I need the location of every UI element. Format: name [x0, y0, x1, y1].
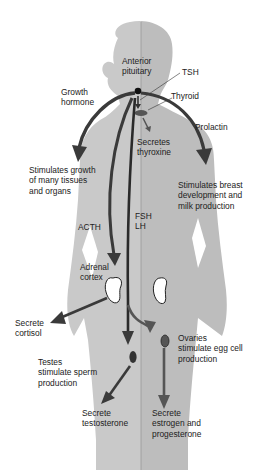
- thyroid-gland-icon: [135, 110, 148, 116]
- secrete-cortisol-label: Secrete cortisol: [15, 318, 44, 339]
- fsh-lh-label: FSH LH: [135, 211, 152, 232]
- pituitary-gland-icon: [135, 88, 142, 95]
- anterior-pituitary-label: Anterior pituitary: [122, 56, 151, 77]
- acth-label: ACTH: [78, 222, 101, 232]
- secrete-estrogen-label: Secrete estrogen and progesterone: [152, 408, 201, 439]
- tsh-label: TSH: [182, 67, 199, 77]
- secrete-testosterone-label: Secrete testosterone: [82, 408, 128, 429]
- adrenal-cortex-label: Adrenal cortex: [80, 262, 109, 283]
- ovary-icon: [161, 335, 169, 347]
- secretes-thyroxine-label: Secretes thyroxine: [137, 137, 171, 158]
- testes-label: Testes stimulate sperm production: [38, 357, 97, 388]
- cortisol-arrowhead-icon: [50, 311, 66, 324]
- ovaries-label: Ovaries stimulate egg cell production: [178, 333, 243, 364]
- stimulates-breast-label: Stimulates breast development and milk p…: [178, 180, 243, 211]
- testes-icon: [129, 351, 136, 363]
- endocrine-diagram: Anterior pituitary TSH Thyroid Growth ho…: [0, 0, 262, 471]
- growth-hormone-label: Growth hormone: [61, 87, 94, 108]
- prolactin-label: Prolactin: [195, 122, 228, 132]
- thyroid-label: Thyroid: [171, 91, 199, 101]
- stimulates-growth-label: Stimulates growth of many tissues and or…: [29, 165, 96, 196]
